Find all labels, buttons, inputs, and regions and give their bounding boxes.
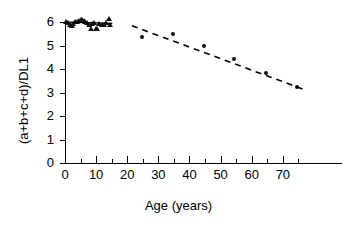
adult-regression-line [132, 26, 305, 90]
child-trend-line [66, 22, 112, 23]
fit-lines-layer [0, 0, 357, 231]
scatter-chart: (a+b+c+d)/DL1 Age (years) 01234560102030… [0, 0, 357, 231]
